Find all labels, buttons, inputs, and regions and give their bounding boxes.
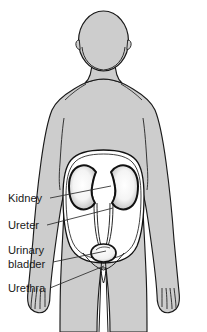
label-ureter: Ureter (8, 219, 39, 231)
label-urethra: Urethra (8, 282, 46, 294)
label-kidney: Kidney (8, 192, 43, 204)
head (79, 11, 129, 71)
label-urinary-bladder-line1: Urinary (8, 244, 44, 256)
leg-gap (99, 272, 108, 332)
right-ear (127, 40, 131, 50)
urinary-system-diagram: Kidney Ureter Urinary bladder Urethra (0, 0, 207, 332)
left-ear (76, 40, 80, 50)
label-urinary-bladder-line2: bladder (8, 258, 46, 270)
